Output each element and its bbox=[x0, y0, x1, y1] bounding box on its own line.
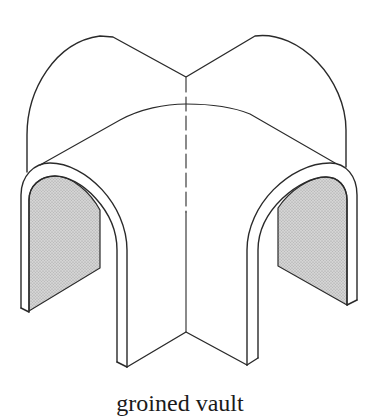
left-arch bbox=[21, 163, 127, 367]
central-pier-base bbox=[127, 332, 247, 367]
right-arch-shading bbox=[278, 177, 347, 305]
left-arch-base bbox=[21, 308, 29, 312]
left-barrel-vault-outline bbox=[27, 36, 186, 172]
left-pier-base bbox=[117, 362, 127, 367]
right-arch-base bbox=[347, 300, 357, 305]
right-barrel-vault-outline bbox=[186, 36, 346, 167]
figure-caption: groined vault bbox=[116, 390, 244, 416]
right-pier-base bbox=[247, 358, 258, 365]
right-arch bbox=[247, 163, 357, 365]
groined-vault-diagram: groined vault bbox=[0, 0, 376, 419]
left-arch-shading bbox=[29, 176, 100, 311]
vault-crown-curve bbox=[40, 104, 335, 165]
